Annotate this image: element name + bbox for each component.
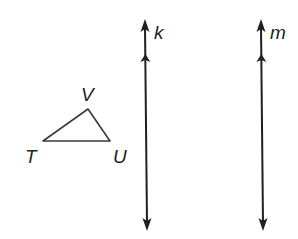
- line-m: [256, 19, 267, 231]
- triangle-tvu: [43, 109, 110, 141]
- line-label-m: m: [270, 22, 286, 43]
- line-k: [140, 19, 151, 231]
- line-label-k: k: [154, 22, 165, 43]
- vertex-label-u: U: [113, 146, 127, 167]
- geometry-diagram: T V U k m: [0, 0, 298, 239]
- vertex-label-v: V: [81, 84, 96, 105]
- vertex-label-t: T: [25, 146, 38, 167]
